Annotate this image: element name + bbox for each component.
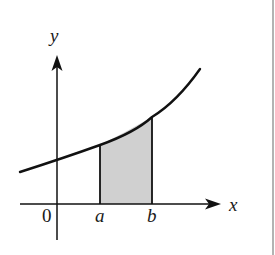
area-under-curve-diagram: y x 0 a b (0, 0, 275, 255)
bound-label-b: b (147, 205, 157, 226)
x-axis-label: x (228, 194, 238, 215)
bound-label-a: a (95, 205, 105, 226)
origin-label: 0 (42, 205, 52, 226)
y-axis-label: y (48, 25, 59, 46)
shaded-area-region (100, 117, 152, 204)
